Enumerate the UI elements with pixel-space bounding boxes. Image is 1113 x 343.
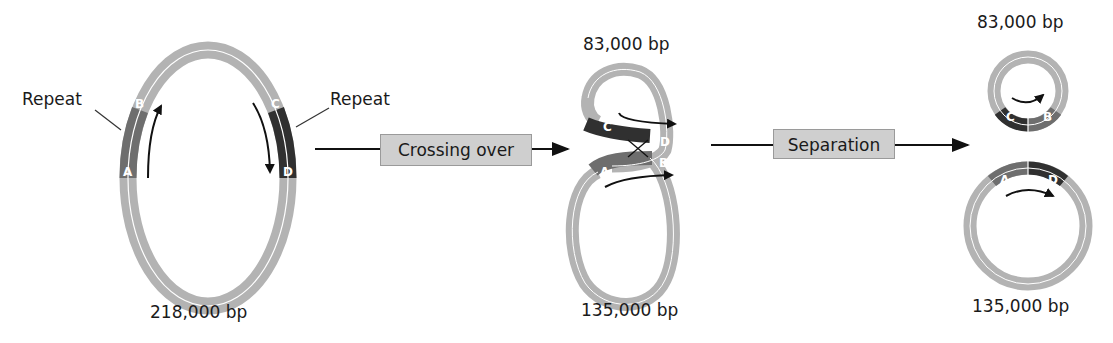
separation-step: Separation (773, 129, 895, 159)
stage3-segment-b-label: B (1043, 110, 1052, 124)
stage3-small-size-label: 83,000 bp (977, 12, 1063, 32)
stage3-segment-a-label: A (1000, 173, 1010, 187)
stage2-segment-b-label: B (659, 156, 668, 170)
stage1-size-label: 218,000 bp (150, 302, 247, 322)
segment-b-label: B (135, 97, 144, 111)
stage2-cd-segment (586, 124, 650, 136)
plasmid-218kb (128, 50, 288, 306)
direction-arrow-down-icon (253, 103, 270, 172)
direction-arrow-up-icon (148, 106, 161, 178)
repeat-left-leader (95, 110, 121, 130)
stage3-arrow-large-icon (1006, 190, 1053, 196)
segment-a-label: A (123, 165, 133, 179)
stage3-segment-c-label: C (1006, 110, 1015, 124)
stage2-segment-a-label: A (600, 165, 610, 179)
stage3-large-size-label: 135,000 bp (972, 296, 1069, 316)
repeat-left-label: Repeat (22, 89, 82, 109)
segment-c-label: C (271, 97, 280, 111)
stage2-segment-c-label: C (603, 120, 612, 134)
plasmid-135kb (970, 161, 1086, 284)
stage3-segment-d-label: D (1048, 173, 1058, 187)
figure-eight-intermediate (572, 69, 673, 304)
segment-d-label: D (283, 165, 293, 179)
stage2-bottom-size-label: 135,000 bp (581, 300, 678, 320)
repeat-right-label: Repeat (330, 89, 390, 109)
stage2-top-size-label: 83,000 bp (583, 34, 669, 54)
repeat-right-leader (296, 108, 329, 127)
stage2-segment-d-label: D (660, 135, 670, 149)
stage3-arrow-small-icon (1012, 95, 1043, 102)
crossing-over-step: Crossing over (380, 134, 532, 166)
diagram-canvas: A B C D C D A B C B (0, 0, 1113, 343)
